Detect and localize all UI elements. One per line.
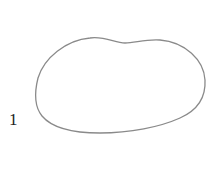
region-label: 1 (9, 111, 18, 128)
blob-outline (36, 38, 205, 133)
diagram-canvas (0, 0, 221, 175)
